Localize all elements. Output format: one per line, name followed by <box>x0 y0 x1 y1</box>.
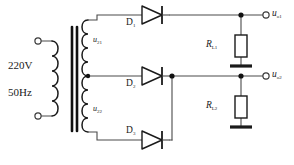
primary-coil <box>52 41 58 116</box>
diode-d3-symbol <box>142 131 170 149</box>
winding-u21-subscript: 21 <box>97 40 102 45</box>
diode-d2-triangle <box>142 67 162 85</box>
junction-layer <box>86 12 244 78</box>
circuit-diagram-canvas: 220V 50Hz u21 u22 D1 D2 D3 RL1 RL2 uo1 u… <box>0 0 294 165</box>
winding-u22-subscript: 22 <box>97 109 102 114</box>
diode-d1-symbol <box>142 6 170 24</box>
diode-d1-triangle <box>142 6 162 24</box>
circuit-schematic-svg <box>0 0 294 165</box>
diode-d1-label: D1 <box>126 18 135 28</box>
resistor-rl2-subscript: L2 <box>212 106 218 111</box>
resistor-rl1-label: RL1 <box>206 40 217 50</box>
diode-d1-symbol-text: D <box>126 17 133 27</box>
terminal-primary-bottom[interactable] <box>35 113 41 119</box>
resistor-rl2-symbol: R <box>206 100 212 110</box>
output-uo2-label: uo2 <box>272 70 282 80</box>
diode-d2-symbol <box>142 67 170 85</box>
diode-d3-subscript: 3 <box>133 131 136 136</box>
output-uo2-subscript: o2 <box>277 75 282 80</box>
resistor-rl2-body <box>235 96 247 118</box>
output-uo1-subscript: o1 <box>277 14 282 19</box>
diode-d2-label: D2 <box>126 79 135 89</box>
resistor-rl1-symbol: R <box>206 39 212 49</box>
terminal-primary-top[interactable] <box>35 38 41 44</box>
diode-d3-triangle <box>142 131 162 149</box>
terminal-output-1[interactable] <box>263 12 269 18</box>
source-frequency-label: 50Hz <box>8 87 32 98</box>
diode-d2-subscript: 2 <box>133 84 136 89</box>
resistor-rl2-label: RL2 <box>206 101 217 111</box>
diode-d3-symbol-text: D <box>126 125 133 135</box>
resistor-rl1-subscript: L1 <box>212 45 218 50</box>
winding-u22-label: u22 <box>93 105 102 113</box>
diode-d3-label: D3 <box>126 126 135 136</box>
diode-d1-subscript: 1 <box>133 23 136 28</box>
junction-dot-output2 <box>238 73 243 78</box>
diode-d2-symbol-text: D <box>126 78 133 88</box>
resistor-rl1-body <box>235 35 247 57</box>
winding-u21-label: u21 <box>93 36 102 44</box>
source-voltage-label: 220V <box>8 60 32 71</box>
junction-dot-center-tap <box>86 74 90 78</box>
junction-dot-output1 <box>238 12 243 17</box>
diode-layer <box>142 6 170 149</box>
output-uo1-label: uo1 <box>272 9 282 19</box>
secondary-winding-lower <box>82 76 88 132</box>
terminal-output-2[interactable] <box>263 73 269 79</box>
secondary-winding-upper <box>82 20 88 76</box>
junction-dot-d2-d3 <box>169 73 174 78</box>
